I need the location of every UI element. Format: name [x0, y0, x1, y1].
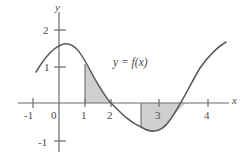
x-axis-label: x [232, 95, 237, 106]
x-tick-label-4: 4 [204, 110, 210, 121]
y-axis-label: y [55, 2, 60, 13]
x-tick-label--1: -1 [24, 110, 33, 121]
x-tick-label-0: 0 [51, 110, 57, 121]
y-tick-label-1: 1 [44, 62, 50, 73]
y-tick-label-2: 2 [43, 25, 49, 36]
x-tick-label-3: 3 [155, 110, 161, 121]
plot-canvas [0, 0, 244, 161]
curve-annotation-label: y = f(x) [113, 57, 148, 69]
figure-container: -1 0 1 2 3 4 2 1 -1 y x y = f(x) [0, 0, 244, 161]
x-tick-label-1: 1 [81, 110, 87, 121]
x-tick-label-2: 2 [107, 110, 113, 121]
y-tick-label--1: -1 [38, 137, 47, 148]
